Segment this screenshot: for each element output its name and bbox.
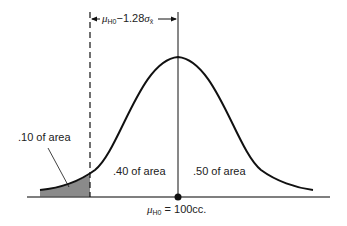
normal-curve-figure bbox=[0, 0, 347, 226]
mean-point bbox=[175, 194, 182, 201]
diagram-canvas: μH0−1.28σx̄ .10 of area .40 of area .50 … bbox=[0, 0, 347, 226]
middle-left-label: .40 of area bbox=[113, 165, 166, 177]
mean-value-label: μH0 = 100cc. bbox=[147, 203, 206, 216]
tail-pointer-line bbox=[48, 148, 69, 187]
bell-curve bbox=[40, 57, 313, 190]
mean-value: = 100cc. bbox=[161, 203, 206, 215]
z-value: −1.28 bbox=[116, 12, 144, 24]
critical-value-label: μH0−1.28σx̄ bbox=[102, 12, 153, 25]
left-tail-label: .10 of area bbox=[18, 131, 71, 143]
arrowhead-right-icon bbox=[171, 17, 177, 22]
xbar-subscript: x̄ bbox=[150, 18, 154, 25]
middle-right-label: .50 of area bbox=[193, 165, 246, 177]
arrowhead-left-icon bbox=[91, 17, 97, 22]
